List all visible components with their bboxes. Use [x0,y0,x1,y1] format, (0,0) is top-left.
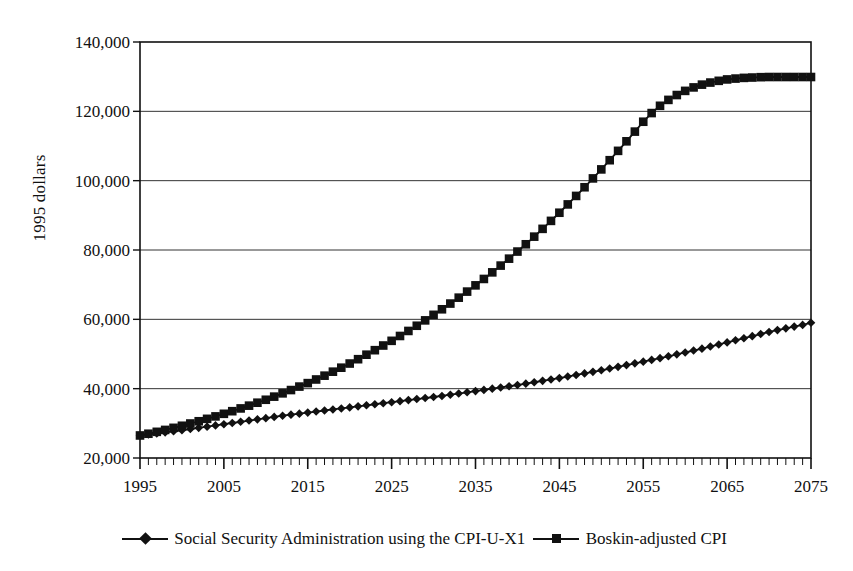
chart-legend: Social Security Administration using the… [0,527,853,549]
legend-entry-boskin: Boskin-adjusted CPI [533,528,730,549]
square-marker-icon [533,532,579,546]
legend-label-boskin: Boskin-adjusted CPI [584,529,731,549]
diamond-marker-icon [122,532,168,546]
legend-label-ssa: Social Security Administration using the… [172,529,529,549]
plot-area [0,0,853,571]
chart-figure: 1995 dollars 20,00040,00060,00080,000100… [0,0,853,571]
legend-entry-ssa: Social Security Administration using the… [122,528,529,549]
